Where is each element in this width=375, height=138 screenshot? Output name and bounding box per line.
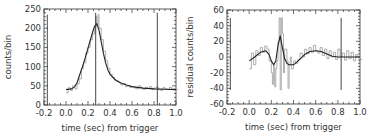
figure: -0.20.00.20.40.60.81.0050100150200250tim… xyxy=(0,0,375,138)
x-tick-label: 0.8 xyxy=(147,108,161,118)
x-tick-label: 0.4 xyxy=(103,108,117,118)
x-tick-label: 1.0 xyxy=(169,108,183,118)
y-axis-label: counts/bin xyxy=(3,35,13,79)
x-tick-label: 1.0 xyxy=(353,107,367,117)
x-tick-label: 0.0 xyxy=(242,107,256,117)
x-tick-label: 0.2 xyxy=(81,108,95,118)
x-tick-label: 0.6 xyxy=(309,107,323,117)
left-chart-panel: -0.20.00.20.40.60.81.0050100150200250tim… xyxy=(3,4,183,133)
x-tick-label: 0.8 xyxy=(331,107,345,117)
y-tick-label: 100 xyxy=(25,62,41,72)
x-tick-label: 0.2 xyxy=(265,107,279,117)
y-tick-label: 20 xyxy=(213,36,224,46)
y-tick-label: 200 xyxy=(25,23,41,33)
x-tick-label: 0.0 xyxy=(59,108,73,118)
y-tick-label: -60 xyxy=(210,99,224,109)
x-axis-label: time (sec) from trigger xyxy=(245,122,342,132)
y-axis-label: residual counts/bin xyxy=(185,17,195,98)
plot-frame xyxy=(44,9,176,105)
y-tick-label: 0 xyxy=(219,52,224,62)
y-tick-label: 250 xyxy=(25,4,41,14)
y-tick-label: 50 xyxy=(30,81,41,91)
data-histogram-line xyxy=(66,15,178,93)
y-tick-label: -20 xyxy=(210,68,224,78)
y-tick-label: 40 xyxy=(213,21,224,31)
right-chart-panel: -0.20.00.20.40.60.81.0-60-40-200204060ti… xyxy=(185,5,367,132)
y-tick-label: 150 xyxy=(25,42,41,52)
x-tick-label: 0.6 xyxy=(125,108,139,118)
x-tick-label: 0.4 xyxy=(287,107,301,117)
y-tick-label: 0 xyxy=(36,100,41,110)
y-tick-label: -40 xyxy=(210,83,224,93)
y-tick-label: 60 xyxy=(213,5,224,15)
x-axis-label: time (sec) from trigger xyxy=(62,123,159,133)
fit-curve xyxy=(66,24,176,90)
